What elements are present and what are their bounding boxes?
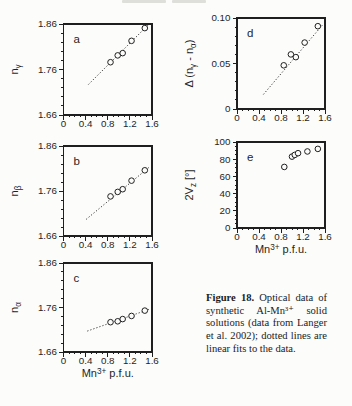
data-point — [108, 59, 114, 65]
svg-text:0.8: 0.8 — [101, 118, 115, 129]
data-point — [120, 186, 126, 192]
svg-text:1.2: 1.2 — [123, 355, 137, 366]
y-axis-title-b: nβ — [8, 185, 23, 196]
data-point — [295, 150, 301, 156]
svg-text:0.4: 0.4 — [79, 118, 93, 129]
svg-text:1.2: 1.2 — [123, 118, 137, 129]
panel-letter-b: b — [74, 155, 80, 167]
data-point — [315, 23, 321, 29]
figure-caption: Figure 18. Optical data of synthetic Al-… — [206, 292, 327, 356]
y-axis-title-e: 2Vz [°] — [183, 169, 198, 200]
svg-text:1.66: 1.66 — [38, 109, 58, 120]
panel-letter-d: d — [247, 27, 253, 39]
svg-text:1.6: 1.6 — [145, 118, 159, 129]
data-point — [142, 25, 148, 31]
data-point — [305, 149, 311, 155]
panel-letter-a: a — [74, 33, 81, 45]
y-axis-title-a: nγ — [8, 63, 23, 74]
svg-text:1.76: 1.76 — [38, 185, 58, 196]
svg-text:0.8: 0.8 — [274, 231, 288, 242]
svg-text:0.4: 0.4 — [79, 239, 93, 250]
svg-text:1.6: 1.6 — [145, 355, 159, 366]
figure-page: 00.40.81.21.61.661.761.86anγ 00.40.81.21… — [0, 0, 352, 406]
x-axis-title-e: Mn3+ p.f.u. — [255, 243, 307, 256]
figure-caption-label: Figure 18. — [206, 292, 254, 303]
chart-panel-e: 00.40.81.21.6020406080100e2Vz [°]Mn3+ p.… — [176, 130, 352, 275]
svg-text:1.66: 1.66 — [38, 346, 58, 357]
svg-text:0: 0 — [61, 118, 67, 129]
svg-text:1.86: 1.86 — [38, 140, 58, 151]
svg-text:1.76: 1.76 — [38, 302, 58, 313]
chart-panel-b: 00.40.81.21.61.661.761.86bnβ — [0, 130, 176, 255]
svg-text:0: 0 — [225, 222, 231, 233]
svg-text:0: 0 — [225, 103, 231, 114]
svg-text:60: 60 — [220, 171, 231, 182]
data-point — [302, 40, 308, 46]
svg-text:0.8: 0.8 — [101, 239, 115, 250]
panel-letter-e: e — [247, 151, 253, 163]
svg-text:0.4: 0.4 — [79, 355, 93, 366]
svg-text:0.4: 0.4 — [252, 231, 266, 242]
svg-text:1.66: 1.66 — [38, 230, 58, 241]
svg-text:0.8: 0.8 — [101, 355, 115, 366]
data-point — [315, 146, 321, 152]
x-axis-title-c: Mn3+ p.f.u. — [82, 367, 134, 380]
data-point — [120, 316, 126, 322]
svg-text:80: 80 — [220, 154, 231, 165]
data-point — [142, 308, 148, 314]
svg-text:20: 20 — [220, 205, 231, 216]
data-point — [129, 38, 135, 44]
svg-text:0.4: 0.4 — [252, 112, 266, 123]
svg-text:1.76: 1.76 — [38, 64, 58, 75]
chart-panel-c: 00.40.81.21.61.661.761.86cnαMn3+ p.f.u. — [0, 255, 176, 406]
svg-text:1.86: 1.86 — [38, 257, 58, 268]
svg-text:40: 40 — [220, 188, 231, 199]
svg-text:1.6: 1.6 — [145, 239, 159, 250]
data-point — [142, 168, 148, 174]
svg-text:0.8: 0.8 — [274, 112, 288, 123]
svg-text:1.2: 1.2 — [296, 112, 310, 123]
data-point — [129, 178, 135, 184]
svg-text:100: 100 — [214, 136, 231, 147]
svg-text:1.2: 1.2 — [296, 231, 310, 242]
svg-text:0.05: 0.05 — [211, 58, 231, 69]
data-point — [293, 54, 299, 60]
svg-text:0: 0 — [61, 355, 67, 366]
svg-text:0: 0 — [234, 231, 240, 242]
data-point — [108, 194, 114, 200]
y-axis-title-c: nα — [8, 302, 23, 313]
chart-panel-d: 00.40.81.21.600.050.10dΔ (nγ - nα) — [176, 0, 352, 130]
y-axis-title-d: Δ (nγ - nα) — [183, 40, 198, 88]
data-point — [120, 50, 126, 56]
chart-panel-a: 00.40.81.21.61.661.761.86anγ — [0, 0, 176, 133]
data-point — [129, 313, 135, 319]
data-point — [281, 63, 287, 69]
svg-text:0: 0 — [61, 239, 67, 250]
svg-text:1.6: 1.6 — [318, 231, 332, 242]
svg-text:0: 0 — [234, 112, 240, 123]
fit-line-d — [263, 25, 322, 94]
panel-letter-c: c — [74, 272, 80, 284]
svg-text:0.10: 0.10 — [211, 12, 231, 23]
data-point — [282, 164, 288, 170]
svg-text:1.2: 1.2 — [123, 239, 137, 250]
svg-text:1.6: 1.6 — [318, 112, 332, 123]
data-point — [108, 319, 114, 325]
svg-text:1.86: 1.86 — [38, 18, 58, 29]
